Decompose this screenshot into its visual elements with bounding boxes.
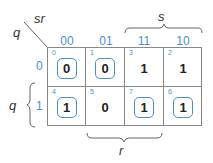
col-header-01: 01 — [87, 34, 125, 48]
cell-index: 6 — [168, 88, 172, 95]
cell-2: 2 1 — [164, 48, 202, 87]
row-header-1: 1 — [36, 99, 43, 113]
cell-value: 1 — [164, 61, 202, 76]
cell-index: 2 — [168, 49, 172, 56]
col-header-00: 00 — [48, 34, 86, 48]
cell-index: 4 — [52, 88, 56, 95]
cell-0: 0 0 — [48, 48, 86, 87]
cell-3: 3 1 — [125, 48, 164, 87]
bottom-brace-r — [87, 133, 162, 142]
brace-label-q: q — [9, 98, 16, 113]
cell-index: 3 — [129, 49, 133, 56]
top-brace-s — [125, 24, 202, 33]
brace-label-s: s — [158, 9, 165, 24]
cell-value: 1 — [48, 100, 85, 115]
cell-1: 1 0 — [86, 48, 125, 87]
cell-index: 5 — [90, 88, 94, 95]
col-vars-label: sr — [34, 11, 45, 26]
cell-4: 4 1 — [48, 87, 86, 126]
cell-value: 1 — [125, 61, 163, 76]
left-brace-q — [27, 83, 35, 127]
cell-value: 0 — [48, 61, 85, 76]
col-header-10: 10 — [164, 34, 202, 48]
cell-value: 0 — [86, 61, 124, 76]
kmap-grid: 0 0 1 0 3 1 2 1 4 1 5 0 7 1 6 1 — [47, 47, 202, 126]
row-header-0: 0 — [36, 59, 43, 73]
brace-label-r: r — [119, 143, 123, 158]
cell-value: 0 — [86, 100, 124, 115]
cell-value: 1 — [125, 100, 163, 115]
cell-index: 7 — [129, 88, 133, 95]
cell-6: 6 1 — [164, 87, 202, 126]
row-vars-label: q — [13, 25, 20, 40]
cell-index: 1 — [90, 49, 94, 56]
cell-7: 7 1 — [125, 87, 164, 126]
col-header-11: 11 — [125, 34, 163, 48]
cell-value: 1 — [164, 100, 202, 115]
cell-index: 0 — [52, 49, 56, 56]
cell-5: 5 0 — [86, 87, 125, 126]
